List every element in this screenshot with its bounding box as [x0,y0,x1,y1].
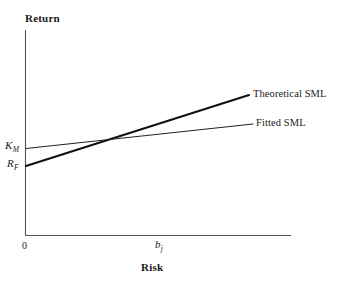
km-subscript: M [13,145,19,154]
beta-base: b [155,238,161,250]
sml-chart-figure: Return Risk 0 bj KM RF Theoretical SML F… [0,0,341,285]
fitted-sml-label: Fitted SML [256,118,306,129]
rf-subscript: F [14,163,19,172]
km-base: K [5,139,12,151]
fitted-sml-line [26,124,253,149]
chart-plot-area [0,0,341,285]
x-axis-beta-label: bj [155,239,163,250]
y-axis-km-label: KM [5,140,19,151]
theoretical-sml-line [26,95,249,166]
x-axis-title: Risk [141,262,163,273]
y-axis-title: Return [25,13,60,24]
y-axis-rf-label: RF [7,158,18,169]
beta-subscript: j [161,244,163,253]
theoretical-sml-label: Theoretical SML [253,89,327,100]
rf-base: R [7,157,14,169]
x-axis-origin-label: 0 [22,241,27,251]
